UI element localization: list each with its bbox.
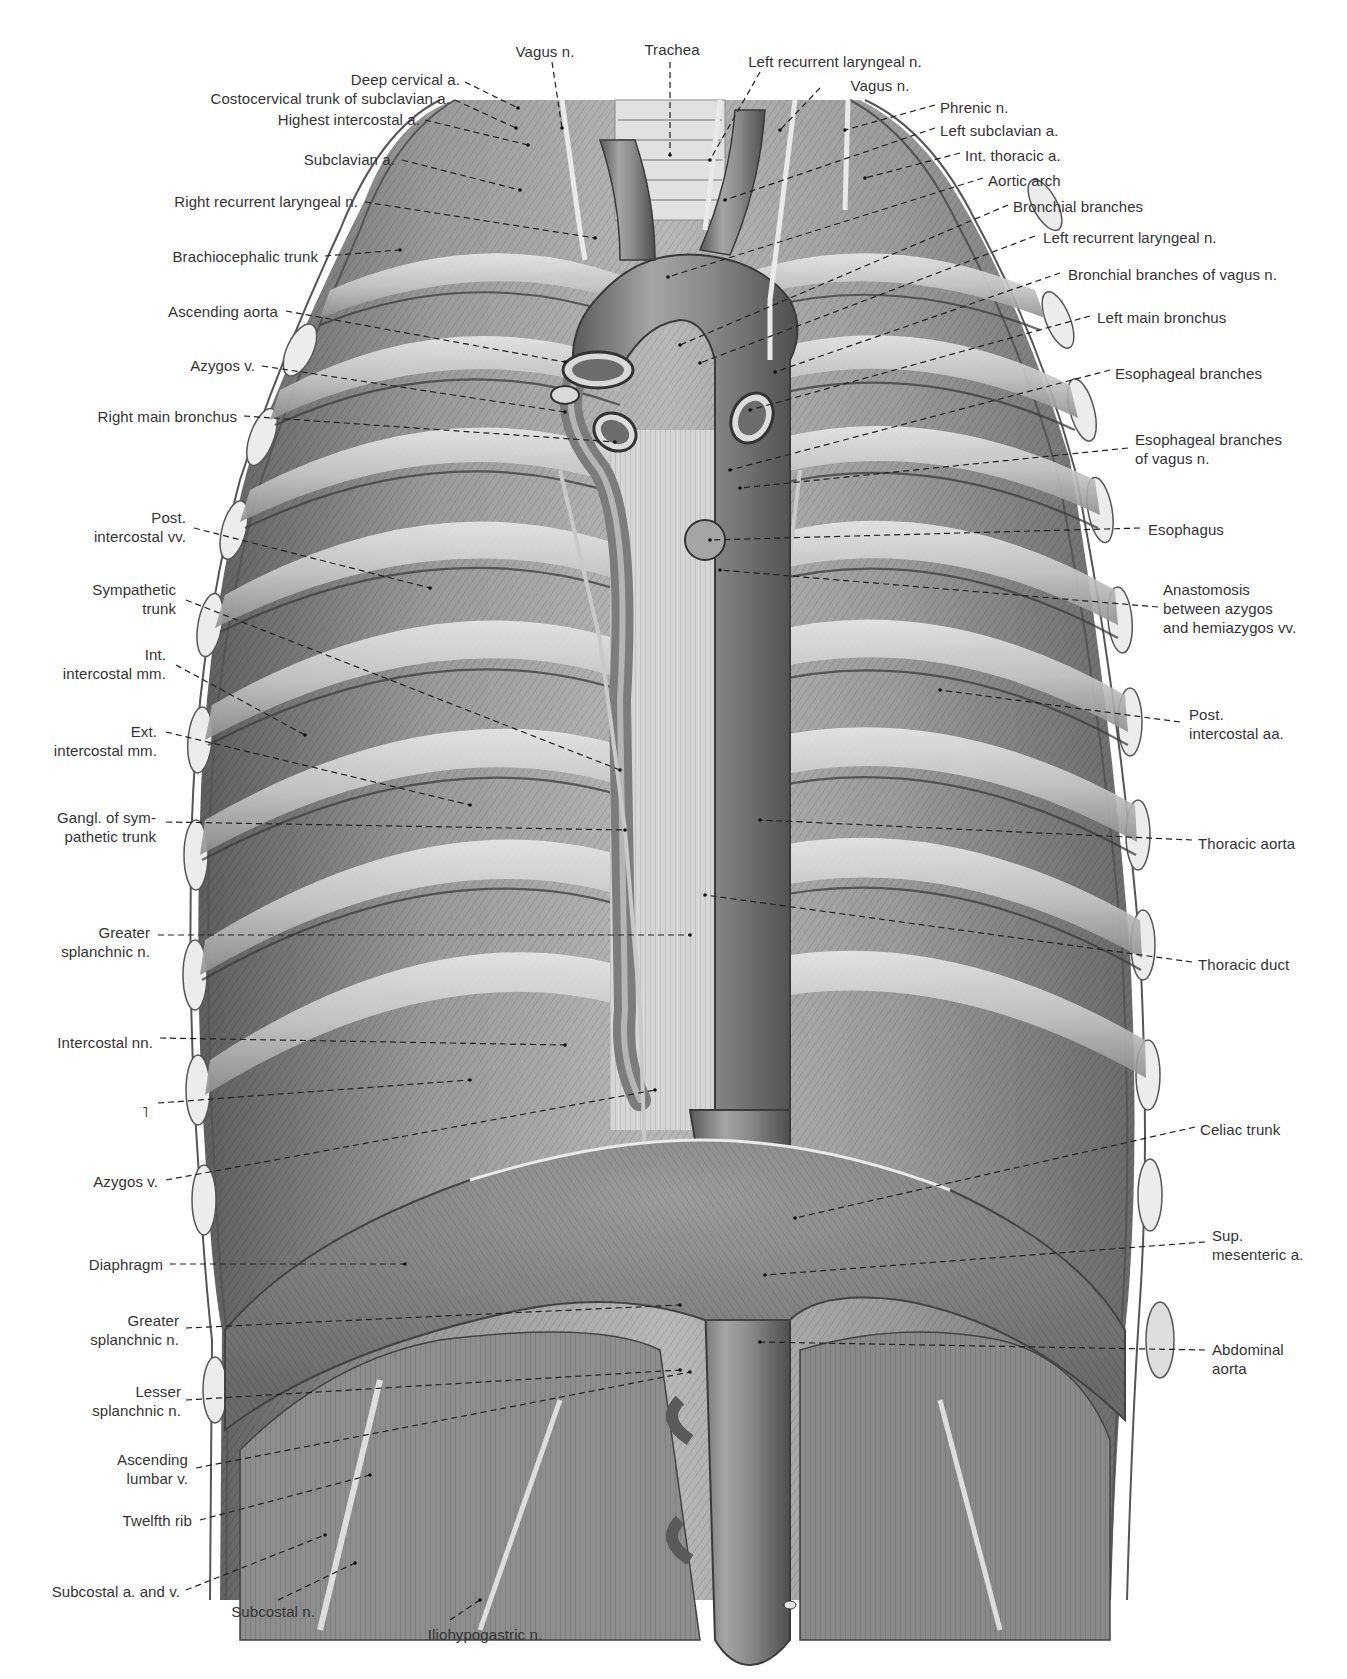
label-bronchial-branches: Bronchial branches	[1013, 197, 1143, 216]
leader-dot	[560, 126, 564, 130]
leader-dot	[563, 410, 567, 414]
leader-dot	[428, 586, 432, 590]
label-azygos-v: Azygos v.	[190, 356, 255, 375]
leader-dot	[618, 768, 622, 772]
leader-dot	[778, 128, 782, 132]
leader-dot	[688, 933, 692, 937]
leader-dot	[843, 128, 847, 132]
leader-dot	[468, 803, 472, 807]
leader-dot	[728, 468, 732, 472]
leader-dot	[758, 818, 762, 822]
label-deep-cervical-a: Deep cervical a.	[351, 70, 460, 89]
leader-dot	[938, 688, 942, 692]
label-left-main-bronchus: Left main bronchus	[1097, 308, 1226, 327]
leader-dot	[708, 538, 712, 542]
label-highest-intercostal-a: Highest intercostal a.	[278, 110, 420, 129]
label-diaphragm: Diaphragm	[89, 1255, 163, 1274]
leader-dot	[403, 1262, 407, 1266]
label-brachiocephalic-trunk: Brachiocephalic trunk	[172, 247, 318, 266]
label-azygos-v: Azygos v.	[93, 1172, 158, 1191]
leader-dot	[703, 893, 707, 897]
leader-dot	[368, 1473, 372, 1477]
label-abdominal-aorta: Abdominal aorta	[1212, 1340, 1284, 1378]
leader-dot	[708, 158, 712, 162]
leader-dot	[516, 106, 520, 110]
leader-dot	[678, 1303, 682, 1307]
label-esophagus: Esophagus	[1148, 520, 1224, 539]
leader-dot	[303, 733, 307, 737]
label-lesser-splanchnic-n: Lesser splanchnic n.	[92, 1382, 181, 1420]
label-phrenic-n: Phrenic n.	[940, 98, 1009, 117]
leader-dot	[398, 248, 402, 252]
label-left-recurrent-laryngeal-n: Left recurrent laryngeal n.	[1043, 228, 1217, 247]
leader-dot	[623, 828, 627, 832]
label-anastomosis-between-azygos-and-hemiazygos-vv: Anastomosis between azygos and hemiazygo…	[1163, 580, 1296, 637]
label-thoracic-duct: Thoracic duct	[1198, 955, 1289, 974]
leader-dot	[653, 1088, 657, 1092]
leader-dot	[514, 126, 518, 130]
leader-dot	[758, 1340, 762, 1344]
label-vagus-n: Vagus n.	[730, 76, 1030, 95]
leader-dot	[468, 1078, 472, 1082]
leader-dot	[563, 1043, 567, 1047]
leader-dot	[613, 440, 617, 444]
leader-dot	[518, 188, 522, 192]
label-greater-splanchnic-n: Greater splanchnic n.	[90, 1311, 179, 1349]
label-aortic-arch: Aortic arch	[988, 171, 1061, 190]
label-left-recurrent-laryngeal-n: Left recurrent laryngeal n.	[685, 52, 985, 71]
leader-dot	[526, 143, 530, 147]
label-esophageal-branches: Esophageal branches	[1115, 364, 1262, 383]
label-int-thoracic-a: Int. thoracic a.	[965, 146, 1061, 165]
leader-dot	[793, 1216, 797, 1220]
label-right-main-bronchus: Right main bronchus	[98, 407, 237, 426]
leader-dot	[353, 1561, 357, 1565]
label-post-intercostal-aa: Post. intercostal aa.	[1189, 705, 1284, 743]
label-bronchial-branches-of-vagus-n: Bronchial branches of vagus n.	[1068, 265, 1277, 284]
leader-dot	[748, 408, 752, 412]
label-intercostal-nn: Intercostal nn.	[57, 1033, 153, 1052]
label-thoracic-aorta: Thoracic aorta	[1198, 834, 1295, 853]
label-left-subclavian-a: Left subclavian a.	[940, 121, 1059, 140]
leader-dot	[678, 343, 682, 347]
leader-dot	[323, 1533, 327, 1537]
leader-dot	[688, 1370, 692, 1374]
label-celiac-trunk: Celiac trunk	[1200, 1120, 1280, 1139]
leader-dot	[698, 361, 702, 365]
label-post-intercostal-vv: Post. intercostal vv.	[94, 508, 186, 546]
leader-dot	[666, 275, 670, 279]
leader-dot	[718, 568, 722, 572]
label-sup-mesenteric-a: Sup. mesenteric a.	[1212, 1226, 1303, 1264]
leader-dot	[478, 1598, 482, 1602]
label-subclavian-a: Subclavian a.	[304, 150, 395, 169]
label-twelfth-rib: Twelfth rib	[123, 1511, 192, 1530]
label-gangl-of-sym-pathetic-trunk: Gangl. of sym- pathetic trunk	[57, 808, 156, 846]
leader-dot	[668, 153, 672, 157]
label-costocervical-trunk-of-subclavian-a: Costocervical trunk of subclavian a.	[210, 89, 450, 108]
leader-dot	[738, 486, 742, 490]
label-int-intercostal-mm: Int. intercostal mm.	[63, 645, 166, 683]
leader-dot	[563, 360, 567, 364]
label-subcostal-n: Subcostal n.	[231, 1602, 315, 1621]
leader-dot	[863, 176, 867, 180]
leader-dot	[678, 1368, 682, 1372]
label-greater-splanchnic-n: Greater splanchnic n.	[61, 923, 150, 961]
leader-dot	[763, 1273, 767, 1277]
label-ascending-lumbar-v: Ascending lumbar v.	[117, 1450, 188, 1488]
label-unlabeled: ˥	[142, 1102, 148, 1121]
leader-dot	[723, 198, 727, 202]
label-right-recurrent-laryngeal-n: Right recurrent laryngeal n.	[174, 192, 358, 211]
label-ext-intercostal-mm: Ext. intercostal mm.	[54, 722, 157, 760]
label-sympathetic-trunk: Sympathetic trunk	[92, 580, 176, 618]
label-iliohypogastric-n: Iliohypogastric n.	[335, 1625, 635, 1644]
leader-dot	[773, 370, 777, 374]
leader-dot	[593, 236, 597, 240]
label-ascending-aorta: Ascending aorta	[168, 302, 278, 321]
label-esophageal-branches-of-vagus-n: Esophageal branches of vagus n.	[1135, 430, 1282, 468]
label-subcostal-a-and-v: Subcostal a. and v.	[52, 1582, 180, 1601]
